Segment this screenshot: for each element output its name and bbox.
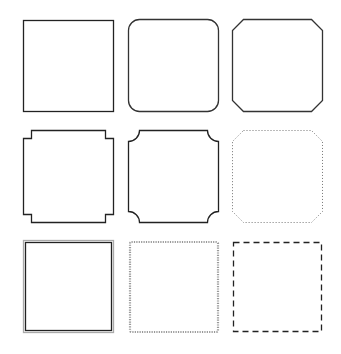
dashed-frame-shape	[233, 242, 323, 333]
frame-rounded	[128, 19, 219, 112]
scalloped-frame-shape	[128, 130, 219, 223]
frame-notched	[23, 130, 114, 223]
frame-chamfered	[232, 19, 323, 112]
chamfered-frame-shape	[232, 19, 323, 112]
dotted-chamfered-frame-shape	[232, 130, 323, 223]
frame-scalloped	[128, 130, 219, 223]
square-frame-shape	[23, 20, 114, 112]
rounded-frame-shape	[128, 19, 219, 112]
frame-square	[23, 20, 114, 112]
frame-double	[23, 240, 114, 333]
frame-chamfered-dotted	[232, 130, 323, 223]
frame-dotted-thick	[129, 241, 219, 333]
dotted-thick-frame-shape	[129, 241, 219, 333]
notched-frame-shape	[23, 130, 114, 223]
frame-dashed	[233, 242, 323, 333]
double-frame-shape	[23, 240, 114, 333]
